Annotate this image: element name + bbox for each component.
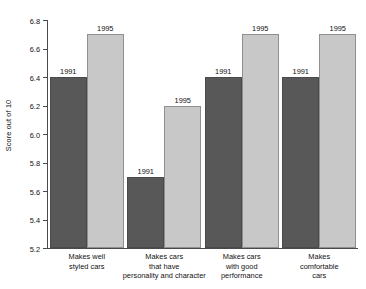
y-tick-label: 6.4 <box>30 73 40 82</box>
bar-1995[interactable]: 1995 <box>242 34 279 248</box>
bar-1995[interactable]: 1995 <box>164 106 201 249</box>
y-tick: 6.6 <box>43 49 48 50</box>
y-tick-label: 6.8 <box>30 16 40 25</box>
y-tick: 6.2 <box>43 106 48 107</box>
bar-value-label: 1995 <box>97 24 113 33</box>
y-tick: 6.0 <box>43 134 48 135</box>
bar-1991[interactable]: 1991 <box>50 77 87 248</box>
bar-value-label: 1995 <box>330 24 346 33</box>
y-tick-label: 5.6 <box>30 187 40 196</box>
x-axis-line <box>47 248 358 249</box>
bar-group: 19911995 <box>282 20 356 248</box>
y-tick: 5.6 <box>43 191 48 192</box>
y-tick: 6.4 <box>43 77 48 78</box>
y-tick: 5.2 <box>43 248 48 249</box>
bar-chart: Score out of 10 5.25.45.65.86.06.26.46.6… <box>0 0 366 289</box>
bar-value-label: 1995 <box>252 24 268 33</box>
bar-value-label: 1995 <box>175 96 191 105</box>
y-axis-title-text: Score out of 10 <box>5 99 14 151</box>
bar-value-label: 1991 <box>293 67 309 76</box>
y-tick-label: 6.6 <box>30 45 40 54</box>
bar-1995[interactable]: 1995 <box>87 34 124 248</box>
bar-1991[interactable]: 1991 <box>205 77 242 248</box>
y-tick-label: 5.8 <box>30 159 40 168</box>
bar-group: 19911995 <box>205 20 279 248</box>
category-label-line: cars <box>260 271 366 281</box>
category-label-line: comfortable <box>260 262 366 272</box>
plot-area: 5.25.45.65.86.06.26.46.66.8 199119951991… <box>48 20 358 248</box>
category-label-line: Makes <box>260 252 366 262</box>
y-axis-title: Score out of 10 <box>0 0 18 250</box>
bar-group: 19911995 <box>50 20 124 248</box>
y-tick-label: 6.0 <box>30 130 40 139</box>
bar-1991[interactable]: 1991 <box>127 177 164 248</box>
bar-1991[interactable]: 1991 <box>282 77 319 248</box>
y-tick: 6.8 <box>43 20 48 21</box>
y-tick: 5.4 <box>43 220 48 221</box>
y-tick-label: 6.2 <box>30 102 40 111</box>
bar-value-label: 1991 <box>60 67 76 76</box>
bar-1995[interactable]: 1995 <box>319 34 356 248</box>
y-tick: 5.8 <box>43 163 48 164</box>
bar-group: 19911995 <box>127 20 201 248</box>
category-label: Makescomfortablecars <box>260 252 366 281</box>
bar-value-label: 1991 <box>138 167 154 176</box>
bar-value-label: 1991 <box>215 67 231 76</box>
y-tick-label: 5.4 <box>30 216 40 225</box>
